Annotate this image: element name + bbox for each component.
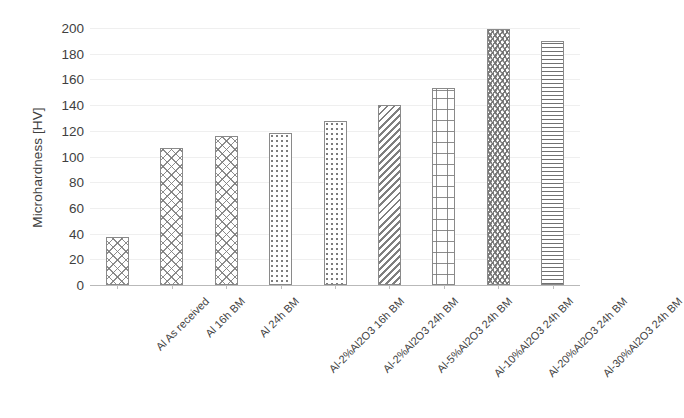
bar xyxy=(160,148,183,285)
bar xyxy=(378,105,401,285)
x-tick-label: Al As received xyxy=(154,295,212,353)
plot-area xyxy=(90,28,580,285)
x-tick-mark xyxy=(444,285,445,289)
y-tick-label: 40 xyxy=(44,226,84,241)
x-tick-mark xyxy=(172,285,173,289)
x-tick-mark xyxy=(389,285,390,289)
x-tick-mark xyxy=(553,285,554,289)
y-tick-label: 140 xyxy=(44,98,84,113)
bar xyxy=(324,121,347,285)
x-tick-mark xyxy=(335,285,336,289)
x-tick-label: Al 24h BM xyxy=(257,295,301,339)
y-tick-label: 80 xyxy=(44,175,84,190)
bar xyxy=(215,136,238,285)
x-tick-mark xyxy=(498,285,499,289)
y-tick-label: 120 xyxy=(44,123,84,138)
x-tick-mark xyxy=(117,285,118,289)
y-tick-label: 0 xyxy=(44,278,84,293)
y-axis-tick-labels: 200180160140120100806040200 xyxy=(40,0,84,418)
x-axis-tick-labels: Al As receivedAl 16h BMAl 24h BMAl-2%Al2… xyxy=(90,285,580,418)
bar xyxy=(487,29,510,285)
x-tick-mark xyxy=(226,285,227,289)
bar xyxy=(106,237,129,285)
bar xyxy=(432,88,455,285)
y-tick-label: 60 xyxy=(44,200,84,215)
y-tick-label: 180 xyxy=(44,46,84,61)
bar xyxy=(269,133,292,285)
y-tick-label: 20 xyxy=(44,252,84,267)
y-tick-label: 100 xyxy=(44,149,84,164)
bar xyxy=(541,41,564,285)
y-tick-label: 160 xyxy=(44,72,84,87)
y-tick-label: 200 xyxy=(44,21,84,36)
x-tick-mark xyxy=(281,285,282,289)
